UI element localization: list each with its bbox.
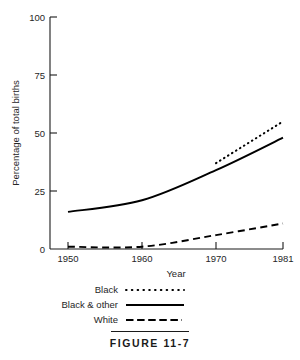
y-tick-label: 25 xyxy=(34,186,45,197)
y-axis-title: Percentage of total births xyxy=(10,80,21,186)
legend-label: White xyxy=(0,312,125,327)
y-tick-label: 100 xyxy=(29,12,45,23)
x-axis-tick-labels: 1950 1960 1970 1981 xyxy=(57,253,293,264)
legend-swatch-dashed xyxy=(125,314,187,326)
series-line-white xyxy=(68,223,283,247)
series-group xyxy=(68,121,283,247)
x-tick-label: 1960 xyxy=(131,253,152,264)
x-tick-label: 1981 xyxy=(272,253,293,264)
x-tick-label: 1970 xyxy=(205,253,226,264)
figure-caption: FIGURE 11-7 xyxy=(0,331,300,349)
legend-item-black: Black xyxy=(0,282,300,297)
y-axis-ticks xyxy=(50,17,57,191)
legend-item-black-and-other: Black & other xyxy=(0,297,300,312)
legend-label: Black & other xyxy=(0,297,125,312)
caption-text: FIGURE 11-7 xyxy=(0,337,300,349)
line-chart: 100 75 50 25 0 1950 1960 1970 1981 Year … xyxy=(0,0,300,300)
figure-container: 100 75 50 25 0 1950 1960 1970 1981 Year … xyxy=(0,0,300,360)
x-tick-label: 1950 xyxy=(57,253,78,264)
y-tick-label: 50 xyxy=(34,128,45,139)
legend-label: Black xyxy=(0,282,125,297)
legend-swatch-dotted xyxy=(125,284,187,296)
series-line-black-and-other xyxy=(68,138,283,212)
y-tick-label: 0 xyxy=(40,244,45,255)
chart-legend: Black Black & other White xyxy=(0,282,300,328)
x-axis-title: Year xyxy=(166,268,185,279)
caption-rule xyxy=(111,331,189,332)
y-axis-tick-labels: 100 75 50 25 0 xyxy=(29,12,45,255)
legend-item-white: White xyxy=(0,312,300,327)
y-tick-label: 75 xyxy=(34,70,45,81)
legend-swatch-solid xyxy=(125,299,187,311)
